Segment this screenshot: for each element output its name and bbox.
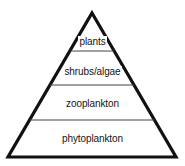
tier-label-shrubs-algae-text: shrubs/algae [63, 66, 121, 77]
trophic-pyramid-diagram: plants shrubs/algae zooplankton phytopla… [0, 0, 185, 166]
tier-label-shrubs-algae: shrubs/algae [0, 66, 185, 77]
tier-label-zooplankton-text: zooplankton [65, 98, 120, 109]
tier-label-plants-text: plants [78, 36, 106, 47]
tier-label-phytoplankton: phytoplankton [0, 133, 185, 144]
tier-label-plants: plants [0, 36, 185, 47]
tier-label-phytoplankton-text: phytoplankton [61, 133, 124, 144]
tier-label-zooplankton: zooplankton [0, 98, 185, 109]
